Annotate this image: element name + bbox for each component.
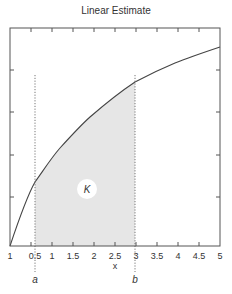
svg-text:4: 4 xyxy=(175,251,180,261)
shaded-area-k xyxy=(35,82,135,246)
svg-text:5: 5 xyxy=(217,251,222,261)
chart-title: Linear Estimate xyxy=(81,5,151,16)
svg-text:2.5: 2.5 xyxy=(109,251,122,261)
svg-text:2: 2 xyxy=(91,251,96,261)
svg-text:1: 1 xyxy=(7,251,12,261)
svg-text:1.5: 1.5 xyxy=(67,251,80,261)
svg-text:4.5: 4.5 xyxy=(193,251,206,261)
chart: Linear Estimate 1 0.5 1 1.5 2 2 xyxy=(0,0,232,294)
marker-label-b: b xyxy=(132,274,138,285)
x-tick-labels: 1 0.5 1 1.5 2 2.5 3 3.5 4 4.5 5 xyxy=(7,251,222,261)
marker-label-a: a xyxy=(32,274,38,285)
left-ticks xyxy=(10,70,14,197)
svg-text:3: 3 xyxy=(133,251,138,261)
top-ticks xyxy=(31,28,199,32)
svg-text:0.5: 0.5 xyxy=(29,251,42,261)
x-axis-label: x xyxy=(113,261,118,271)
svg-text:3.5: 3.5 xyxy=(151,251,164,261)
svg-text:1: 1 xyxy=(49,251,54,261)
right-ticks xyxy=(216,70,220,197)
